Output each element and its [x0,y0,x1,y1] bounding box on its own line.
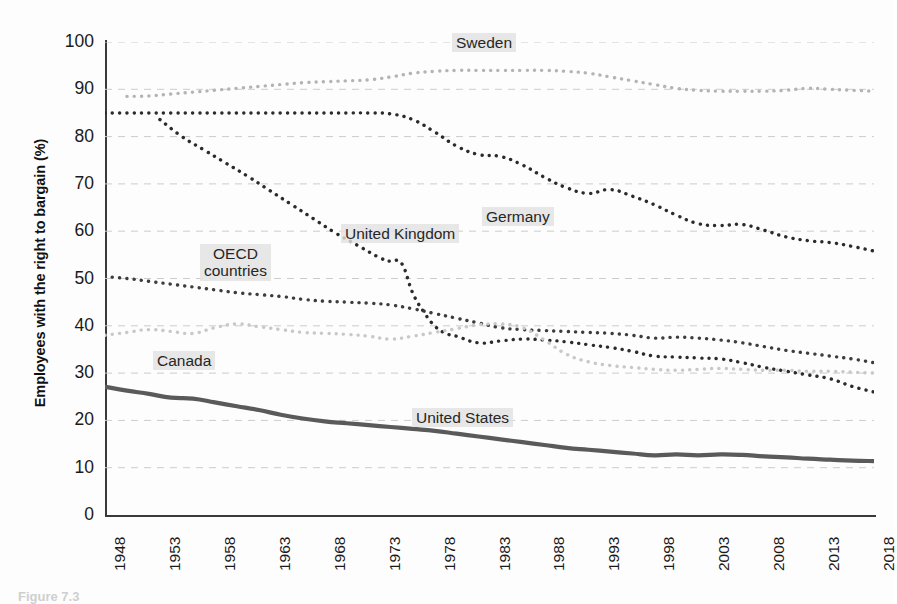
x-tick-label: 1958 [222,537,238,571]
oecd-label-line-2: countries [204,262,267,279]
series-label-oecd-countries: OECD countries [200,244,271,281]
x-tick-label: 1978 [442,537,458,571]
series-label-canada: Canada [153,351,215,370]
x-tick-label: 2018 [881,537,897,571]
series-label-germany: Germany [482,207,554,226]
y-tick-label: 0 [32,506,94,524]
x-tick-label: 1963 [277,537,293,571]
y-tick-label: 20 [32,411,94,429]
x-tick-label: 1988 [551,537,567,571]
x-tick-label: 2013 [826,537,842,571]
y-tick-label: 40 [32,317,94,335]
series-line-oecd-countries [105,277,874,363]
figure-caption: Figure 7.3 [18,589,79,604]
x-tick-label: 1968 [332,537,348,571]
series-label-sweden: Sweden [452,33,516,52]
series-line-germany [105,113,874,251]
series-line-sweden [127,70,874,96]
series-label-united-kingdom: United Kingdom [341,224,459,243]
x-tick-label: 1998 [661,537,677,571]
y-tick-label: 50 [32,270,94,288]
x-tick-label: 2003 [716,537,732,571]
y-tick-label: 80 [32,128,94,146]
x-axis-line [105,515,876,517]
y-tick-label: 30 [32,364,94,382]
y-tick-label: 90 [32,80,94,98]
y-tick-label: 10 [32,459,94,477]
series-label-united-states: United States [412,408,513,427]
x-tick-label: 1993 [606,537,622,571]
oecd-label-line-1: OECD [213,245,258,262]
y-tick-label: 100 [32,33,94,51]
x-tick-label: 1953 [167,537,183,571]
x-tick-label: 1973 [387,537,403,571]
x-tick-label: 1948 [112,537,128,571]
y-tick-label: 70 [32,175,94,193]
x-tick-label: 1983 [497,537,513,571]
x-tick-label: 2008 [771,537,787,571]
y-tick-label: 60 [32,222,94,240]
